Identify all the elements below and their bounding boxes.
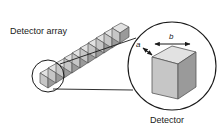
magnified-detector-cube (152, 46, 196, 99)
detector-array-label: Detector array (10, 26, 68, 36)
figure-canvas: Detector array Detector a b (0, 0, 222, 129)
detector-cube-10 (112, 23, 129, 43)
detector-label: Detector (150, 115, 184, 125)
detector-array-figure: Detector array Detector a b (0, 0, 222, 129)
callout-line-lower (53, 89, 133, 90)
cube-front-face (152, 57, 178, 99)
dimension-b-label: b (169, 32, 174, 41)
dimension-a-label: a (136, 40, 141, 49)
